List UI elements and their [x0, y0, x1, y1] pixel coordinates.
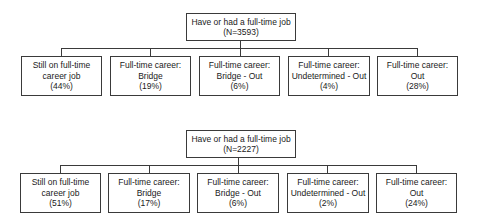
child-connector [61, 48, 62, 56]
child-node-bridge-out: Full-time career: Bridge - Out (6%) [199, 56, 280, 96]
child-node-still-on-career: Still on full-time career job (44%) [21, 56, 102, 96]
node-label: Bridge - Out [215, 188, 261, 199]
node-label: Undetermined - Out [291, 188, 366, 199]
root-count: (N=3593) [223, 27, 259, 38]
node-percent: (6%) [231, 81, 249, 92]
child-connector [149, 165, 150, 173]
node-label: Bridge [138, 71, 163, 82]
root-node: Have or had a full-time job (N=2227) [186, 130, 296, 158]
child-connector [328, 48, 329, 56]
root-label: Have or had a full-time job [191, 17, 290, 28]
node-label: Undetermined - Out [292, 71, 367, 82]
child-connector [150, 48, 151, 56]
node-percent: (2%) [319, 198, 337, 209]
child-connector [60, 165, 61, 173]
node-label: Full-time career: [387, 60, 448, 71]
root-label: Have or had a full-time job [191, 134, 290, 145]
child-node-out: Full-time career: Out (24%) [376, 173, 457, 213]
child-node-bridge: Full-time career: Bridge (17%) [108, 173, 190, 213]
node-label: Full-time career: [209, 60, 270, 71]
child-node-still-on-career: Still on full-time career job (51%) [20, 173, 101, 213]
child-connector [327, 165, 328, 173]
node-label: Still on full-time [33, 60, 91, 71]
node-label: Still on full-time [32, 177, 90, 188]
child-node-bridge: Full-time career: Bridge (19%) [110, 56, 191, 96]
node-label: Full-time career: [207, 177, 268, 188]
child-connector [416, 165, 417, 173]
child-connector [417, 48, 418, 56]
node-label: career job [43, 71, 81, 82]
node-percent: (24%) [405, 198, 428, 209]
node-label: Full-time career: [297, 177, 358, 188]
tree-diagram-2: Have or had a full-time job (N=2227) Sti… [0, 117, 480, 223]
node-label: Full-time career: [298, 60, 359, 71]
node-percent: (44%) [50, 81, 73, 92]
child-connector [238, 165, 239, 173]
node-percent: (4%) [320, 81, 338, 92]
child-node-undetermined-out: Full-time career: Undetermined - Out (4%… [288, 56, 370, 96]
node-label: Full-time career: [118, 177, 179, 188]
node-percent: (6%) [229, 198, 247, 209]
tree-diagram-1: Have or had a full-time job (N=3593) Sti… [0, 0, 480, 110]
root-node: Have or had a full-time job (N=3593) [186, 13, 296, 41]
child-connector [240, 48, 241, 56]
node-percent: (19%) [139, 81, 162, 92]
node-percent: (51%) [49, 198, 72, 209]
child-node-undetermined-out: Full-time career: Undetermined - Out (2%… [287, 173, 369, 213]
child-node-out: Full-time career: Out (28%) [377, 56, 458, 96]
node-label: Out [411, 71, 425, 82]
node-label: Bridge - Out [217, 71, 263, 82]
node-label: Out [410, 188, 424, 199]
node-label: Full-time career: [120, 60, 181, 71]
node-label: Full-time career: [386, 177, 447, 188]
node-percent: (17%) [138, 198, 161, 209]
node-label: Bridge [137, 188, 162, 199]
root-count: (N=2227) [223, 144, 259, 155]
node-label: career job [42, 188, 80, 199]
node-percent: (28%) [406, 81, 429, 92]
child-node-bridge-out: Full-time career: Bridge - Out (6%) [197, 173, 279, 213]
